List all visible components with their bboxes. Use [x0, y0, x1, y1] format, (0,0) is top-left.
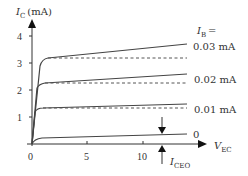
legend-header: IB=	[196, 25, 217, 39]
x-axis-label: VEC	[214, 140, 232, 154]
y-axis-label: IC(mA)	[15, 6, 52, 20]
iceo-arrow-up-icon	[158, 145, 166, 152]
curve-ib-0	[32, 134, 187, 144]
iceo-arrow-down-icon	[158, 127, 166, 134]
label-0.01: 0.01 mA	[194, 104, 237, 115]
y-tick-3: 3	[17, 58, 22, 69]
x-tick-10: 10	[137, 151, 147, 162]
y-axis-arrow-icon	[28, 19, 36, 28]
y-tick-2: 2	[17, 85, 22, 96]
label-0: 0	[193, 129, 199, 140]
curve-ib-0.02	[32, 74, 187, 144]
label-0.02: 0.02 mA	[194, 74, 237, 85]
x-tick-5: 5	[84, 151, 89, 162]
iceo-label: ICEO	[169, 156, 190, 170]
y-tick-4: 4	[17, 31, 22, 42]
label-0.03: 0.03 mA	[193, 41, 236, 52]
collector-characteristics-chart: 4 3 2 1 0 5 10 IC(mA) VEC IB= 0.03 mA 0.…	[0, 0, 248, 176]
x-tick-0: 0	[28, 151, 33, 162]
x-axis-arrow-icon	[198, 140, 207, 148]
y-tick-1: 1	[17, 112, 22, 123]
